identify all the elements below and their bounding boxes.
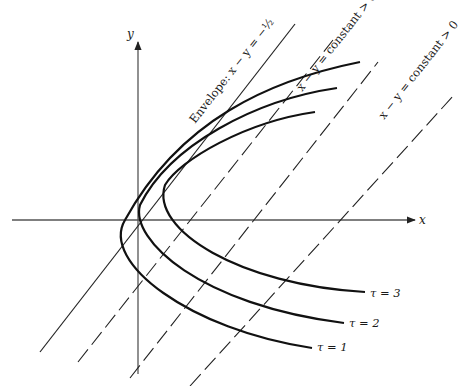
x-axis-label: x xyxy=(419,213,426,227)
characteristic-curves xyxy=(121,62,365,348)
curve-tau-3 xyxy=(163,112,365,292)
curve-tau-1 xyxy=(121,62,360,348)
diagram-canvas: x y Envelope: x − y = −½ x − y = constan… xyxy=(0,0,460,386)
envelope-line xyxy=(40,24,295,352)
curve-label-tau-3: τ = 3 xyxy=(370,286,401,300)
curve-label-tau-1: τ = 1 xyxy=(317,340,348,354)
curve-tau-2 xyxy=(139,88,344,323)
level-line-label-2: x − y = constant > 0 xyxy=(375,18,460,122)
curve-label-tau-2: τ = 2 xyxy=(349,316,380,330)
level-line-label-1: x − y = constant > 0 xyxy=(293,0,379,94)
y-axis-label: y xyxy=(126,27,134,41)
